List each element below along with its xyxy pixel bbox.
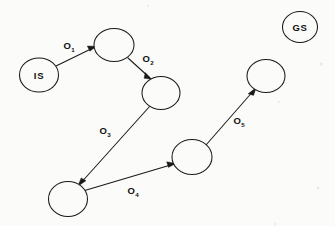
edge-o5-label: O5 xyxy=(233,115,245,128)
edge-o3-label: O3 xyxy=(99,125,111,138)
edge-o1-label-base: O xyxy=(63,40,70,51)
node-goal-state-label: GS xyxy=(292,22,307,33)
edge-o3-label-base: O xyxy=(99,125,106,136)
edge-o5[interactable]: O5 xyxy=(206,88,256,146)
node-initial-state-label: IS xyxy=(34,70,44,81)
node-state-3[interactable] xyxy=(49,182,88,217)
node-initial-state[interactable]: IS xyxy=(20,58,59,92)
edge-o4-label-base: O xyxy=(127,185,134,196)
edge-o3-label-subscript: 3 xyxy=(107,131,111,138)
node-state-4[interactable] xyxy=(172,140,212,175)
edge-o2-arrowhead xyxy=(144,73,151,80)
node-state-5-shape xyxy=(247,60,285,93)
edge-o3-line xyxy=(79,106,150,185)
edge-o1-label-subscript: 1 xyxy=(71,46,75,53)
edge-o1-label: O1 xyxy=(63,40,75,53)
edge-o2-label-subscript: 2 xyxy=(150,59,154,66)
node-state-3-shape xyxy=(49,182,88,217)
node-state-2-shape xyxy=(142,77,180,110)
edge-o4[interactable]: O4 xyxy=(83,162,176,198)
edge-o5-line xyxy=(206,89,255,145)
node-state-1-shape xyxy=(94,29,134,62)
edge-o4-label: O4 xyxy=(127,185,139,198)
diagram-svg: O1 O2 O3 O4 xyxy=(0,0,335,226)
edge-o2[interactable]: O2 xyxy=(128,53,154,79)
node-state-2[interactable] xyxy=(142,77,180,110)
node-state-5[interactable] xyxy=(247,60,285,93)
node-state-4-shape xyxy=(172,140,212,175)
diagram-canvas: O1 O2 O3 O4 xyxy=(0,0,335,226)
edge-o4-label-subscript: 4 xyxy=(135,191,139,198)
node-goal-state[interactable]: GS xyxy=(283,12,318,43)
edge-o1[interactable]: O1 xyxy=(56,40,97,66)
edge-o5-label-base: O xyxy=(233,115,240,126)
edge-o2-label: O2 xyxy=(142,53,154,66)
node-state-1[interactable] xyxy=(94,29,134,62)
edge-o2-label-base: O xyxy=(142,53,149,64)
edge-o5-label-subscript: 5 xyxy=(241,121,245,128)
